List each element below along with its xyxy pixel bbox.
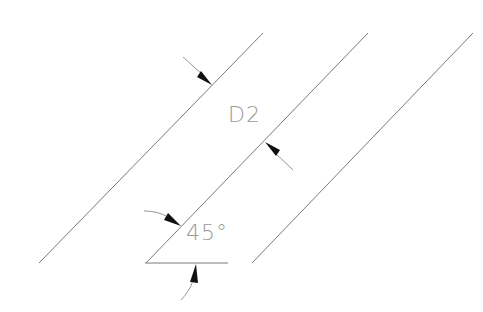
parallel-line-left xyxy=(39,33,263,263)
angle-arrow-upper xyxy=(144,211,181,226)
parallel-line-right xyxy=(252,33,473,263)
angle-arrow-lower xyxy=(181,264,198,300)
parallel-line-middle xyxy=(146,33,368,263)
arrowhead-icon xyxy=(190,264,198,283)
angle-label: 45° xyxy=(186,222,228,244)
arrowhead-icon xyxy=(164,213,181,226)
arrowhead-icon xyxy=(197,71,212,85)
d2-arrow-lower xyxy=(265,142,293,170)
technical-drawing xyxy=(0,0,483,312)
d2-arrow-upper xyxy=(183,57,212,85)
dimension-label-d2: D2 xyxy=(228,104,261,126)
arrowhead-icon xyxy=(265,142,280,156)
